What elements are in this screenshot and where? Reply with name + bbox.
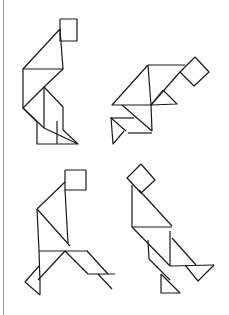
tangram-edge (37, 182, 65, 209)
figure-bottom-left (25, 170, 115, 295)
tangram-edge (170, 265, 214, 266)
tangram-edge (37, 209, 70, 246)
tangram-edge (65, 170, 86, 190)
tangram-edge (37, 209, 39, 251)
tangram-edge (161, 274, 180, 293)
tangram-edge (172, 238, 196, 265)
tangram-edge (87, 251, 108, 274)
tangram-edge (180, 57, 209, 86)
figure-bottom-right (127, 164, 214, 293)
drawing-page: Tangram figures (0, 0, 229, 315)
tangram-edge (23, 108, 78, 144)
tangram-edge (23, 87, 44, 128)
tangram-edge (44, 87, 63, 130)
tangram-edge (38, 251, 65, 280)
tangram-edge (111, 118, 126, 131)
tangram-edge (23, 29, 63, 69)
tangram-edge (111, 117, 124, 144)
tangram-edge (185, 265, 214, 281)
tangram-edge (127, 164, 155, 193)
figure-top-right (111, 57, 209, 144)
tangram-edge (65, 190, 68, 243)
tangram-edge (60, 19, 77, 41)
tangram-edge (39, 251, 40, 295)
tangram-edge (139, 190, 172, 226)
tangram-edge (151, 90, 177, 105)
tangram-edge (132, 227, 170, 266)
figure-top-left (23, 19, 78, 144)
tangram-edge (25, 266, 40, 295)
tangram-edge (44, 69, 63, 87)
tangram-canvas (0, 0, 229, 315)
tangram-edge (112, 65, 151, 105)
tangram-edge (98, 274, 112, 289)
tangram-edge (151, 105, 152, 131)
tangram-edge (63, 130, 78, 144)
